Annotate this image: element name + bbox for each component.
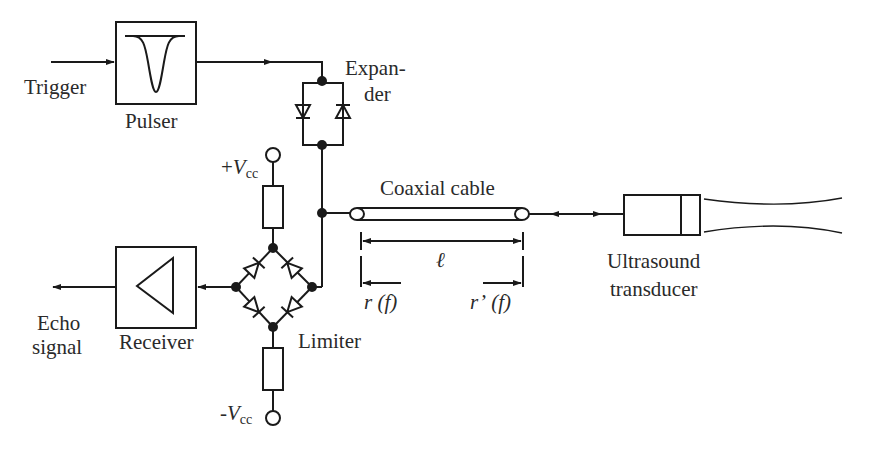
transducer-label-1: Ultrasound xyxy=(607,251,700,272)
reflection-right-label: r’ (f) xyxy=(470,292,511,313)
reflection-left-label: r (f) xyxy=(364,292,397,313)
junction-dots xyxy=(231,76,327,332)
amplifier-icon xyxy=(137,258,173,313)
coaxial-cable-label: Coaxial cable xyxy=(380,178,495,199)
trigger-label: Trigger xyxy=(24,77,86,98)
expander-diodes xyxy=(296,83,350,145)
vcc-positive-label: +Vcc xyxy=(221,157,258,181)
ultrasound-beam xyxy=(704,198,842,233)
pulser-label: Pulser xyxy=(125,111,178,132)
expander-label-2: der xyxy=(364,84,391,105)
circuit-diagram xyxy=(0,0,870,452)
echo-label-2: signal xyxy=(32,337,82,358)
vcc-positive-supply xyxy=(263,148,283,248)
limiter-label: Limiter xyxy=(298,331,361,352)
transducer-label-2: transducer xyxy=(610,279,697,300)
length-label: ℓ xyxy=(436,250,445,271)
expander-label-1: Expan- xyxy=(345,58,406,79)
vcc-negative-supply xyxy=(263,327,283,425)
pulser-output-wire xyxy=(196,62,322,81)
receiver-label: Receiver xyxy=(119,332,194,353)
pulse-icon xyxy=(125,36,185,92)
transducer-icon xyxy=(624,195,700,235)
vcc-negative-label: -Vcc xyxy=(220,403,252,427)
limiter-bridge xyxy=(236,248,312,327)
coaxial-cable xyxy=(350,208,529,220)
receiver-box xyxy=(116,247,196,328)
echo-label-1: Echo xyxy=(37,313,80,334)
